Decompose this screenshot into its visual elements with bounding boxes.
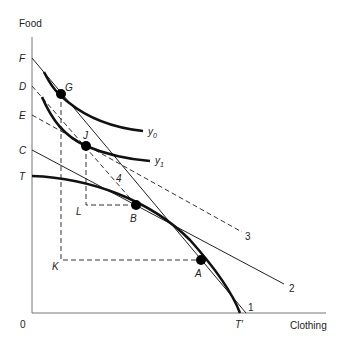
label-K: K [52,261,60,272]
line-3 [32,115,242,232]
label-line-2: 2 [289,283,295,294]
point-B [131,200,141,210]
label-B: B [130,213,137,224]
y-axis-label: Food [19,18,42,29]
label-T: T [19,171,26,182]
label-line-4: 4 [116,173,122,184]
point-J [81,141,91,151]
label-line-3: 3 [245,231,251,242]
price-lines [32,58,284,313]
label-F: F [19,53,26,64]
origin-label: 0 [20,319,26,330]
point-A [196,255,206,265]
label-A: A [194,268,202,279]
x-axis-label: Clothing [290,320,327,331]
label-y1: y1 [154,155,164,168]
trade-diagram: Food Clothing 0 F D E C T T′ G J B A L K… [0,0,342,348]
label-C: C [19,145,27,156]
label-T-prime: T′ [235,319,244,330]
label-G: G [65,82,73,93]
label-D: D [19,81,26,92]
axes [32,37,326,313]
label-J: J [82,130,89,141]
label-L: L [76,206,82,217]
label-y0: y0 [147,126,157,139]
label-E: E [19,110,26,121]
line-2 [32,150,284,284]
indifference-curve-y0 [44,72,143,131]
label-line-1: 1 [248,302,254,313]
